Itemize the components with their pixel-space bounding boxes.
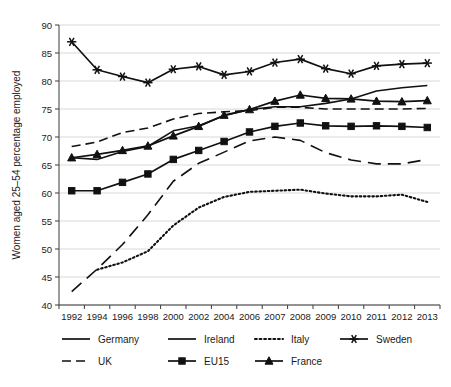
x-tick-label: 1994 <box>87 311 108 322</box>
legend-item-italy[interactable]: Italy <box>255 334 309 345</box>
legend-item-ireland[interactable]: Ireland <box>168 334 235 345</box>
y-tick-label: 40 <box>41 300 52 311</box>
y-tick-label: 70 <box>41 132 52 143</box>
legend-label: Sweden <box>376 334 412 345</box>
legend-item-germany[interactable]: Germany <box>62 334 139 345</box>
x-tick-label: 2011 <box>366 311 386 322</box>
y-tick-label: 45 <box>41 272 52 283</box>
legend-item-eu15[interactable]: EU15 <box>168 356 229 367</box>
data-point-marker <box>297 120 303 126</box>
series-line-italy <box>97 190 427 270</box>
y-tick-label: 85 <box>41 48 52 59</box>
legend-marker <box>179 358 185 364</box>
data-point-marker <box>296 91 304 98</box>
x-tick-label: 2007 <box>264 311 285 322</box>
data-point-marker <box>399 123 405 129</box>
x-tick-label: 1992 <box>61 311 82 322</box>
x-axis: 1992199419961998200020022004200620072008… <box>59 305 440 322</box>
legend-label: UK <box>98 356 112 367</box>
data-point-marker <box>145 171 151 177</box>
y-tick-label: 60 <box>41 188 52 199</box>
series-line-ireland <box>72 137 428 292</box>
data-point-marker <box>323 123 329 129</box>
y-tick-label: 55 <box>41 216 52 227</box>
y-tick-label: 50 <box>41 244 52 255</box>
x-tick-label: 1998 <box>137 311 158 322</box>
y-tick-label: 80 <box>41 76 52 87</box>
x-tick-label: 1996 <box>112 311 133 322</box>
x-tick-label: 2006 <box>239 311 260 322</box>
legend-label: Ireland <box>204 334 235 345</box>
data-point-marker <box>373 123 379 129</box>
data-point-marker <box>348 123 354 129</box>
data-point-marker <box>170 156 176 162</box>
x-tick-label: 2004 <box>214 311 235 322</box>
line-chart: 4045505560657075808590 19921994199619982… <box>0 0 451 387</box>
legend-item-uk[interactable]: UK <box>62 356 112 367</box>
x-tick-label: 2010 <box>341 311 362 322</box>
data-point-marker <box>424 124 430 130</box>
series-italy <box>97 190 427 270</box>
data-point-marker <box>221 138 227 144</box>
legend-item-france[interactable]: France <box>255 356 323 367</box>
y-tick-label: 75 <box>41 104 52 115</box>
data-point-marker <box>272 123 278 129</box>
x-tick-label: 2013 <box>417 311 438 322</box>
x-tick-label: 2012 <box>391 311 412 322</box>
legend-item-sweden[interactable]: Sweden <box>340 334 412 345</box>
y-axis-title: Women aged 25–54 percentage employed <box>11 71 22 260</box>
x-tick-label: 2008 <box>290 311 311 322</box>
series-eu15 <box>69 120 431 194</box>
x-tick-label: 2009 <box>315 311 336 322</box>
data-point-marker <box>119 179 125 185</box>
x-tick-label: 2000 <box>163 311 184 322</box>
data-point-marker <box>246 129 252 135</box>
chart-container: 4045505560657075808590 19921994199619982… <box>0 0 451 387</box>
data-point-marker <box>69 188 75 194</box>
legend-label: Italy <box>291 334 309 345</box>
grid-lines <box>59 25 440 305</box>
x-tick-label: 2002 <box>188 311 209 322</box>
legend-label: France <box>291 356 323 367</box>
legend-label: EU15 <box>204 356 229 367</box>
y-axis-title-text: Women aged 25–54 percentage employed <box>11 71 22 260</box>
y-axis: 4045505560657075808590 <box>41 20 59 311</box>
series-sweden <box>67 38 432 87</box>
series-ireland <box>72 137 428 292</box>
data-point-marker <box>94 188 100 194</box>
y-tick-label: 90 <box>41 20 52 31</box>
y-tick-label: 65 <box>41 160 52 171</box>
legend-label: Germany <box>98 334 139 345</box>
chart-legend: GermanyIrelandItalySwedenUKEU15France <box>62 334 412 367</box>
data-point-marker <box>196 147 202 153</box>
